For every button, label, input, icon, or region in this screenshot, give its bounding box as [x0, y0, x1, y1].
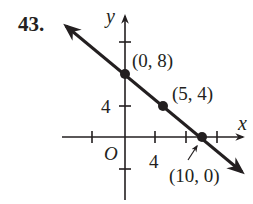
point-5-4: [158, 101, 168, 111]
point-label-10-0: (10, 0): [169, 165, 220, 187]
x-axis-label: x: [237, 112, 247, 134]
y-tick-label-4: 4: [101, 96, 111, 117]
origin-label: O: [104, 143, 118, 164]
point-label-5-4: (5, 4): [172, 83, 213, 105]
point-10-0: [197, 132, 207, 142]
point-label-0-8: (0, 8): [132, 50, 173, 72]
graph: y x O 4 4 (0, 8) (5, 4) (10, 0): [0, 0, 253, 204]
x-tick-label-4: 4: [149, 151, 159, 172]
y-axis-label: y: [104, 5, 115, 28]
callout-arrow: [188, 146, 197, 160]
point-0-8: [120, 69, 130, 79]
